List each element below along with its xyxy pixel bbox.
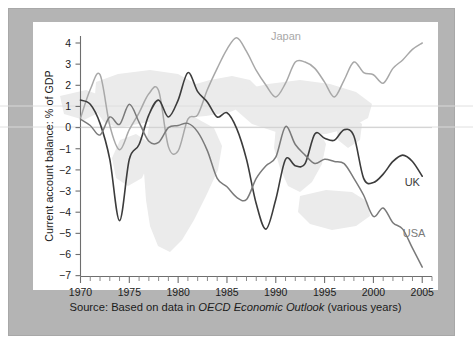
caption-prefix: Source: Based on data in [69, 301, 198, 313]
y-tick-label: −6 [59, 248, 71, 260]
y-tick-label: −4 [59, 206, 71, 218]
y-tick-label: −1 [59, 143, 71, 155]
series-label-usa: USA [403, 227, 426, 239]
world-map-watermark [60, 70, 372, 252]
series-label-uk: UK [405, 176, 421, 188]
y-axis-title: Current account balance: % of GDP [43, 70, 55, 242]
y-tick-label: 0 [65, 121, 71, 133]
caption-suffix: (various years) [324, 301, 401, 313]
y-tick-label: −3 [59, 185, 71, 197]
caption-italic-title: OECD Economic Outlook [198, 301, 324, 313]
y-tick-label: −5 [59, 227, 71, 239]
y-tick-label: 1 [65, 100, 71, 112]
y-tick-label: −7 [59, 269, 71, 281]
line-chart: 43210−1−2−3−4−5−6−7 19701975198019851990… [0, 0, 473, 347]
series-label-japan: Japan [271, 30, 301, 42]
y-tick-label: 3 [65, 58, 71, 70]
y-tick-label: 2 [65, 79, 71, 91]
figure-container: 43210−1−2−3−4−5−6−7 19701975198019851990… [0, 0, 473, 347]
y-tick-label: 4 [65, 37, 71, 49]
series-lines [81, 38, 423, 267]
y-tick-label: −2 [59, 164, 71, 176]
x-axis-ticks: 19701975198019851990199520002005 [69, 277, 434, 299]
source-caption: Source: Based on data in OECD Economic O… [33, 296, 438, 318]
